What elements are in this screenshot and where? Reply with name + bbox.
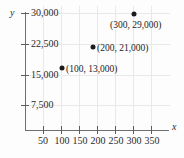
- y-axis-tick: [21, 44, 29, 45]
- data-point-marker: [132, 12, 137, 17]
- gridline-vertical: [43, 6, 44, 130]
- x-axis-tick: [151, 126, 152, 134]
- x-axis-tick-label: 300: [127, 136, 142, 146]
- x-axis-tick: [133, 126, 134, 134]
- y-axis-line: [25, 12, 26, 131]
- x-axis-tick-label: 250: [109, 136, 124, 146]
- y-axis-label: y: [10, 8, 14, 18]
- y-axis-tick-label: 30,000: [31, 8, 59, 18]
- x-axis-tick-label: 150: [73, 136, 88, 146]
- x-axis-tick: [43, 126, 44, 134]
- data-point-label: (200, 21,000): [97, 43, 148, 53]
- x-axis-tick: [97, 126, 98, 134]
- y-axis-tick-label: 15,000: [31, 70, 59, 80]
- y-axis-tick: [21, 105, 29, 106]
- x-axis-tick-label: 100: [55, 136, 70, 146]
- y-axis-tick-label: 7,500: [31, 100, 54, 110]
- x-axis-tick: [79, 126, 80, 134]
- scatter-plot-figure: y x 30,000 22,500 15,000 7,500 50 100 15…: [0, 0, 184, 158]
- data-point-marker: [60, 66, 65, 71]
- y-axis-tick: [21, 75, 29, 76]
- y-axis-tick: [21, 13, 29, 14]
- x-axis-tick-label: 50: [38, 136, 48, 146]
- x-axis-label: x: [172, 122, 176, 132]
- y-axis-tick-label: 22,500: [31, 39, 59, 49]
- data-point-label: (100, 13,000): [66, 64, 117, 74]
- x-axis-tick-label: 200: [91, 136, 106, 146]
- data-point-marker: [91, 45, 96, 50]
- data-point-label: (300, 29,000): [110, 20, 161, 30]
- x-axis-tick: [61, 126, 62, 134]
- x-axis-tick: [115, 126, 116, 134]
- x-axis-tick-label: 350: [145, 136, 160, 146]
